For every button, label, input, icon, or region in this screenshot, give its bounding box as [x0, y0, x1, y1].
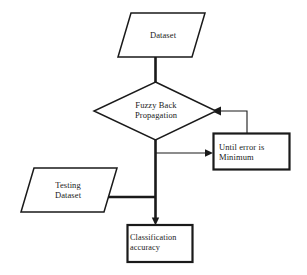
node-dataset-shape [118, 13, 205, 57]
node-classification-accuracy-shape [128, 225, 193, 262]
flowchart-canvas [0, 0, 307, 275]
node-testing-dataset-shape [21, 168, 117, 212]
edge-until-error-feedback-loop [218, 111, 247, 133]
arrowhead-to-until-error-icon [205, 149, 213, 156]
node-fuzzy-back-propagation-shape [94, 82, 216, 140]
flowchart-diagram: Dataset Fuzzy Back Propagation Until err… [0, 0, 307, 275]
node-until-error-minimum-shape [214, 134, 290, 170]
